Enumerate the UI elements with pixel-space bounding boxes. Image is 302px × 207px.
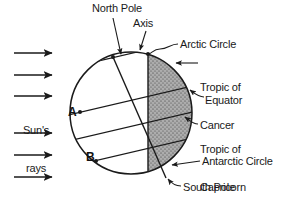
globe-group [60, 35, 210, 198]
label-point-a: A [68, 105, 77, 119]
diagram-canvas: North Pole Axis Arctic Circle Tropic of … [0, 0, 302, 207]
leader-antarctic-circle [172, 161, 200, 165]
leader-axis [140, 31, 146, 50]
point-a-marker [78, 110, 82, 114]
leader-arctic-circle [149, 44, 178, 54]
latitude-line-tropic-of-capricorn [60, 134, 210, 169]
label-suns-rays: Sun's rays [14, 99, 58, 199]
label-suns-rays-line1: Sun's [14, 124, 58, 137]
label-axis: Axis [133, 17, 153, 30]
leader-north-pole [112, 18, 122, 54]
label-arctic-circle: Arctic Circle [180, 38, 236, 51]
label-north-pole: North Pole [92, 2, 142, 15]
leader-south-pole [168, 179, 181, 186]
label-tropic-of-cancer-line1: Tropic of [200, 81, 241, 94]
label-antarctic-circle: Antarctic Circle [202, 155, 273, 168]
label-suns-rays-line2: rays [14, 162, 58, 175]
label-south-pole: South Pole [183, 181, 235, 194]
north-pole-marker [111, 55, 115, 59]
label-tropic-of-capricorn-line1: Tropic of [200, 143, 246, 156]
label-equator: Equator [205, 94, 242, 107]
label-point-b: B [86, 150, 95, 164]
